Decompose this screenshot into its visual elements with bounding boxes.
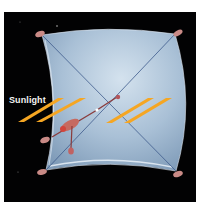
corner-tip-bottom-right	[172, 170, 183, 179]
star	[17, 171, 18, 172]
star	[19, 21, 20, 22]
star	[56, 25, 58, 27]
sunlight-label: Sunlight	[9, 95, 46, 105]
